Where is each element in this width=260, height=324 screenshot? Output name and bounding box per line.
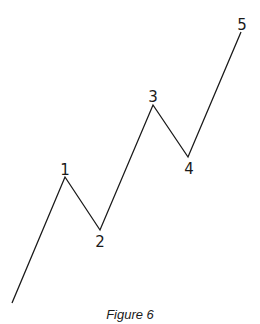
wave-label-2: 2 [95,233,105,251]
wave-label-5: 5 [237,16,247,34]
elliott-wave-diagram: 1 2 3 4 5 Figure 6 [0,0,260,324]
figure-caption: Figure 6 [106,307,154,322]
wave-label-1: 1 [60,161,70,179]
wave-polyline [12,32,241,303]
wave-labels: 1 2 3 4 5 [60,16,247,251]
wave-label-4: 4 [184,160,194,178]
wave-label-3: 3 [148,88,158,106]
